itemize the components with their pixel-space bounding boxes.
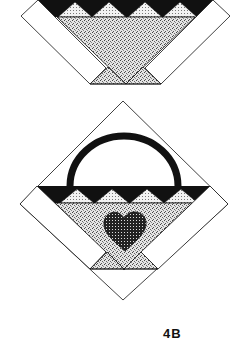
figure-caption: 4B xyxy=(163,326,182,341)
heart-basket-block xyxy=(20,101,228,300)
basket-block-top xyxy=(21,0,230,84)
